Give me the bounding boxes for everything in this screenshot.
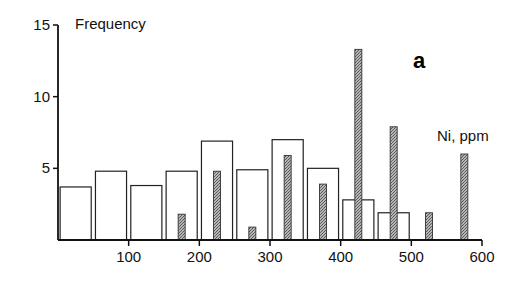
x-tick-label: 500 (399, 248, 424, 265)
x-tick-label: 100 (116, 248, 141, 265)
x-tick-label: 200 (187, 248, 212, 265)
bar-shaded (355, 49, 362, 240)
bar-shaded (426, 213, 433, 240)
x-tick-label: 400 (328, 248, 353, 265)
bar-open (131, 186, 162, 240)
x-tick-label: 300 (257, 248, 282, 265)
bar-shaded (249, 227, 256, 240)
bar-shaded (461, 154, 468, 240)
y-tick-label: 15 (33, 16, 50, 33)
bar-open (95, 171, 126, 240)
bar-shaded (390, 127, 397, 240)
x-axis-title: Ni, ppm (437, 127, 489, 144)
y-tick-label: 5 (42, 159, 50, 176)
panel-label: a (413, 48, 426, 73)
bar-open (60, 187, 91, 240)
y-tick-label: 10 (33, 88, 50, 105)
bar-shaded (320, 184, 327, 240)
x-tick-label: 600 (469, 248, 494, 265)
y-axis-title: Frequency (75, 15, 146, 32)
bar-shaded (284, 155, 291, 240)
histogram-chart: 51015100200300400500600 Frequency Ni, pp… (0, 0, 523, 284)
bar-shaded (214, 171, 221, 240)
bar-shaded (178, 214, 185, 240)
